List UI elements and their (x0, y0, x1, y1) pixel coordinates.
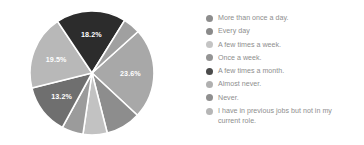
legend-item[interactable]: More than once a day. (206, 13, 364, 23)
pie-slice-label: 18.2% (81, 30, 102, 39)
legend-swatch-icon (206, 28, 213, 35)
chart-plot-area: 23.6%13.2%19.5%18.2% (0, 0, 190, 145)
legend-item-label: A few times a month. (218, 66, 284, 76)
pie-slice-label: 13.2% (51, 92, 72, 101)
chart-legend: More than once a day.Every dayA few time… (206, 13, 364, 130)
legend-item[interactable]: A few times a week. (206, 40, 364, 50)
pie-chart-figure: 23.6%13.2%19.5%18.2% More than once a da… (0, 0, 364, 145)
legend-swatch-icon (206, 81, 213, 88)
legend-swatch-icon (206, 54, 213, 61)
pie-chart-svg: 23.6%13.2%19.5%18.2% (29, 10, 155, 136)
pie-slice-label: 23.6% (120, 69, 141, 78)
legend-item-label: Every day (218, 26, 250, 36)
legend-swatch-icon (206, 15, 213, 22)
legend-item-label: More than once a day. (218, 13, 288, 23)
legend-item[interactable]: Almost never. (206, 79, 364, 89)
legend-item-label: I have in previous jobs but not in my cu… (218, 106, 332, 126)
legend-item[interactable]: I have in previous jobs but not in my cu… (206, 106, 364, 126)
legend-item[interactable]: Every day (206, 26, 364, 36)
pie-slice-label: 19.5% (46, 55, 67, 64)
legend-swatch-icon (206, 41, 213, 48)
legend-swatch-icon (206, 108, 213, 115)
legend-swatch-icon (206, 94, 213, 101)
legend-item-label: A few times a week. (218, 40, 281, 50)
legend-item[interactable]: Once a week. (206, 53, 364, 63)
legend-swatch-icon (206, 68, 213, 75)
legend-item-label: Never. (218, 93, 239, 103)
legend-item-label: Once a week. (218, 53, 262, 63)
legend-item[interactable]: Never. (206, 93, 364, 103)
legend-item[interactable]: A few times a month. (206, 66, 364, 76)
legend-item-label: Almost never. (218, 79, 261, 89)
